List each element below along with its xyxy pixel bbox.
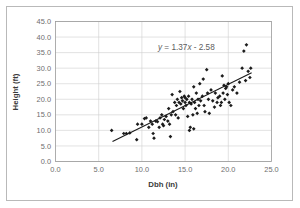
data-point bbox=[175, 97, 179, 101]
data-point bbox=[245, 43, 249, 47]
data-points bbox=[110, 43, 253, 142]
data-point bbox=[151, 132, 155, 136]
data-point bbox=[194, 91, 198, 95]
data-point bbox=[220, 101, 224, 105]
x-axis-tick-labels: 0.05.010.015.020.025.0 bbox=[50, 165, 278, 174]
data-point bbox=[198, 82, 202, 86]
data-point bbox=[169, 135, 173, 139]
data-point bbox=[240, 66, 244, 70]
data-point bbox=[167, 107, 171, 111]
data-point bbox=[244, 79, 248, 83]
y-tick-label: 25.0 bbox=[37, 79, 51, 88]
equation-operator: = bbox=[162, 43, 171, 52]
data-point bbox=[215, 101, 219, 105]
data-point bbox=[220, 74, 224, 78]
regression-equation: y = 1.37x - 2.58 bbox=[157, 43, 215, 52]
x-axis-title: Dbh (in) bbox=[148, 180, 178, 189]
x-tick-label: 0.0 bbox=[50, 165, 60, 174]
data-point bbox=[166, 119, 170, 123]
x-tick-label: 10.0 bbox=[135, 165, 149, 174]
y-axis-tick-labels: 0.05.010.015.020.025.030.035.040.045.0 bbox=[37, 17, 51, 166]
data-point bbox=[147, 125, 151, 129]
data-point bbox=[176, 116, 180, 120]
data-point bbox=[248, 76, 252, 80]
x-tick-label: 15.0 bbox=[178, 165, 192, 174]
data-point bbox=[201, 77, 205, 81]
data-point bbox=[135, 138, 139, 142]
data-point bbox=[157, 125, 161, 129]
y-tick-label: 15.0 bbox=[37, 110, 51, 119]
data-point bbox=[170, 93, 174, 97]
chart-figure: 0.05.010.015.020.025.0 0.05.010.015.020.… bbox=[0, 0, 300, 208]
data-point bbox=[178, 90, 182, 94]
data-point bbox=[140, 122, 144, 126]
chart-svg: 0.05.010.015.020.025.0 0.05.010.015.020.… bbox=[0, 0, 300, 208]
data-point bbox=[235, 91, 239, 95]
equation-intercept: - 2.58 bbox=[191, 43, 215, 52]
data-point bbox=[202, 104, 206, 108]
data-point bbox=[207, 97, 211, 101]
data-point bbox=[175, 104, 179, 108]
equation-slope: 1.37 bbox=[171, 43, 187, 52]
data-point bbox=[227, 101, 231, 105]
data-point bbox=[136, 122, 140, 126]
x-tick-label: 5.0 bbox=[94, 165, 104, 174]
data-point bbox=[223, 97, 227, 101]
data-point bbox=[191, 113, 195, 117]
x-tick-label: 20.0 bbox=[221, 165, 235, 174]
data-point bbox=[194, 107, 198, 111]
x-tick-label: 25.0 bbox=[264, 165, 278, 174]
data-point bbox=[168, 122, 172, 126]
data-point bbox=[213, 105, 217, 109]
data-point bbox=[219, 104, 223, 108]
data-point bbox=[163, 118, 167, 122]
data-point bbox=[197, 104, 201, 108]
data-point bbox=[231, 88, 235, 92]
data-point bbox=[152, 136, 156, 140]
data-point bbox=[173, 101, 177, 105]
y-tick-label: 30.0 bbox=[37, 64, 51, 73]
data-point bbox=[249, 66, 253, 70]
data-point bbox=[192, 85, 196, 89]
y-tick-label: 10.0 bbox=[37, 126, 51, 135]
y-axis-title: Height (ft) bbox=[11, 73, 20, 110]
data-point bbox=[221, 91, 225, 95]
data-point bbox=[246, 69, 250, 73]
y-tick-label: 40.0 bbox=[37, 33, 51, 42]
y-tick-label: 5.0 bbox=[41, 142, 51, 151]
data-point bbox=[232, 85, 236, 89]
scatter-chart: 0.05.010.015.020.025.0 0.05.010.015.020.… bbox=[0, 0, 300, 208]
y-tick-label: 0.0 bbox=[41, 157, 51, 166]
data-point bbox=[229, 104, 233, 108]
data-point bbox=[188, 125, 192, 129]
data-point bbox=[188, 129, 192, 133]
data-point bbox=[190, 97, 194, 101]
data-point bbox=[110, 129, 114, 133]
data-point bbox=[209, 88, 213, 92]
data-point bbox=[226, 93, 230, 97]
data-point bbox=[174, 113, 178, 117]
y-tick-label: 45.0 bbox=[37, 17, 51, 26]
y-tick-label: 20.0 bbox=[37, 95, 51, 104]
data-point bbox=[187, 94, 191, 98]
y-tick-label: 35.0 bbox=[37, 48, 51, 57]
data-point bbox=[203, 110, 207, 114]
